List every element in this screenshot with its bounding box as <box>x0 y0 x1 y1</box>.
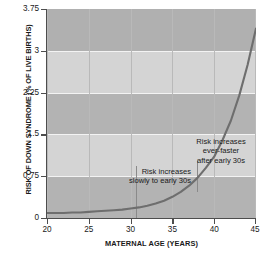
chart-figure: RISK OF DOWN SYNDROME (% OF LIVE BIRTHS)… <box>0 0 261 254</box>
x-tick-mark <box>89 219 90 224</box>
y-tick-mark <box>41 218 46 219</box>
x-tick-mark <box>214 219 215 224</box>
y-tick-mark <box>41 134 46 135</box>
x-tick-mark <box>172 219 173 224</box>
y-tick-label: 0.75 <box>5 171 39 180</box>
x-tick-label: 40 <box>199 225 229 234</box>
plot-area: Risk increases slowly to early 30s Risk … <box>47 9 256 218</box>
risk-curve <box>47 9 256 218</box>
annotation-slow-increase: Risk increases slowly to early 30s <box>108 167 191 186</box>
x-tick-label: 30 <box>116 225 146 234</box>
annotation-fast-increase: Risk increases ever-faster after early 3… <box>186 137 256 165</box>
x-tick-label: 45 <box>240 225 261 234</box>
y-tick-label: 0 <box>5 213 39 222</box>
y-tick-label: 2.25 <box>5 88 39 97</box>
y-tick-label: 3.75 <box>5 4 39 13</box>
y-tick-mark <box>41 176 46 177</box>
y-tick-mark <box>41 51 46 52</box>
y-axis-line <box>46 9 47 219</box>
x-tick-mark <box>131 219 132 224</box>
x-axis-title: MATERNAL AGE (YEARS) <box>47 239 256 248</box>
y-tick-mark <box>41 93 46 94</box>
y-tick-mark <box>41 9 46 10</box>
x-tick-mark <box>255 219 256 224</box>
y-tick-label: 1.5 <box>5 129 39 138</box>
y-tick-label: 3 <box>5 46 39 55</box>
x-tick-label: 35 <box>157 225 187 234</box>
x-tick-label: 20 <box>32 225 62 234</box>
x-tick-mark <box>47 219 48 224</box>
x-tick-label: 25 <box>74 225 104 234</box>
x-axis-line <box>46 218 256 219</box>
